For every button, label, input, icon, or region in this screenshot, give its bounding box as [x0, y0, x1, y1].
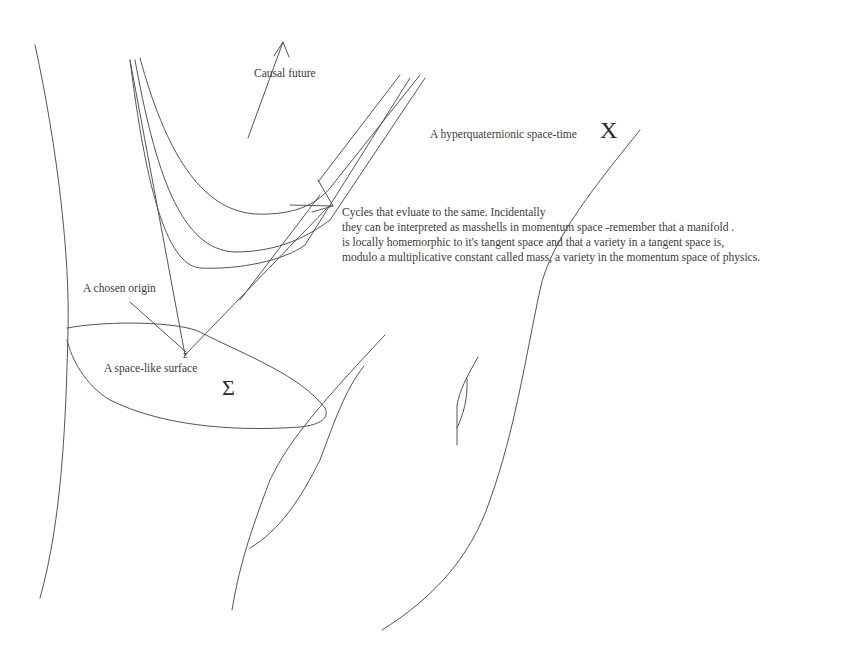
lower-lens-left: [232, 335, 385, 610]
causal-future-arrow-shaft: [248, 42, 283, 138]
note-pointer-2: [290, 205, 333, 206]
origin-mark: z: [183, 348, 187, 362]
lower-lens-right: [250, 366, 364, 548]
chosen-origin-label: A chosen origin: [83, 281, 156, 295]
causal-future-label: Causal future: [254, 66, 316, 80]
cycle-curve-extra: [318, 75, 400, 182]
cone-line-right: [185, 205, 330, 355]
cycles-note-line-4: modulo a multiplicative constant called …: [342, 250, 760, 265]
spacetime-symbol: X: [600, 118, 617, 142]
cycles-note-line-3: is locally homemorphic to it's tangent s…: [342, 235, 760, 250]
cycles-note-line-1: Cycles that evluate to the same. Inciden…: [342, 205, 760, 220]
small-lens-left: [457, 357, 478, 445]
spacetime-left-boundary: [35, 45, 68, 598]
cycle-curve-outer: [140, 58, 420, 214]
spacelike-surface-outline: [67, 323, 326, 428]
spacetime-label: A hyperquaternionic space-time: [430, 127, 577, 141]
origin-pointer: [130, 302, 186, 352]
cone-line-left: [130, 60, 185, 355]
diagram-drawing: [0, 0, 851, 659]
small-lens-right: [457, 378, 467, 428]
diagram-canvas: Causal future A hyperquaternionic space-…: [0, 0, 851, 659]
causal-future-arrow-head: [274, 42, 289, 57]
spacelike-surface-label: A space-like surface: [104, 361, 197, 375]
cone-line-right-2: [240, 195, 320, 300]
cycles-note-line-2: they can be interpreted as masshells in …: [342, 220, 760, 235]
cycles-note: Cycles that evluate to the same. Inciden…: [342, 205, 760, 265]
surface-symbol: Σ: [222, 377, 235, 399]
